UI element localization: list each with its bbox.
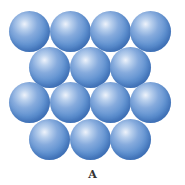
sphere-packing-diagram [0,0,185,185]
sphere [130,11,171,52]
sphere [9,11,50,52]
layer-label: A [0,168,185,181]
sphere [9,82,50,123]
sphere [50,82,91,123]
sphere [70,47,111,88]
sphere [29,47,70,88]
sphere [110,47,151,88]
sphere [90,11,131,52]
sphere [110,119,151,160]
sphere [70,119,111,160]
sphere [90,82,131,123]
sphere [130,82,171,123]
sphere [50,11,91,52]
sphere [29,119,70,160]
